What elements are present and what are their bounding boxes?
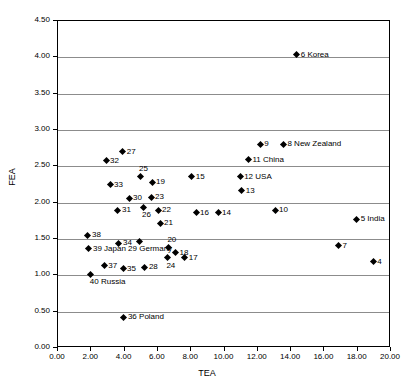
data-point-label: 36 Poland xyxy=(128,312,164,321)
y-tick-mark xyxy=(53,56,57,57)
data-point-label: 11 China xyxy=(252,155,283,164)
data-point-label: 27 xyxy=(127,147,136,156)
data-point-label: 39 Japan 29 Germany xyxy=(93,244,172,253)
data-point-label: 8 New Zealand xyxy=(287,139,341,148)
x-axis-title: TEA xyxy=(0,368,414,378)
x-tick-mark xyxy=(290,347,291,351)
y-tick-label: 2.50 xyxy=(34,161,50,169)
data-point-label: 30 xyxy=(133,193,142,202)
y-tick-mark xyxy=(53,20,57,21)
y-tick-label: 4.50 xyxy=(34,16,50,24)
data-point-label: 22 xyxy=(162,205,171,214)
y-tick-mark xyxy=(53,93,57,94)
y-tick-label: 0.00 xyxy=(34,343,50,351)
y-axis-title: FEA xyxy=(7,162,17,192)
x-tick-mark xyxy=(390,347,391,351)
x-tick-mark xyxy=(57,347,58,351)
x-tick-mark xyxy=(357,347,358,351)
gridline xyxy=(58,166,389,167)
gridline xyxy=(58,57,389,58)
gridline xyxy=(58,275,389,276)
gridline xyxy=(58,312,389,313)
x-tick-mark xyxy=(224,347,225,351)
data-point-label: 40 Russia xyxy=(90,277,126,286)
data-point-label: 16 xyxy=(200,208,209,217)
data-point-label: 37 xyxy=(108,261,117,270)
y-tick-label: 1.00 xyxy=(34,270,50,278)
data-point-label: 31 xyxy=(122,205,131,214)
data-point-label: 5 India xyxy=(361,214,385,223)
data-point-label: 26 xyxy=(142,210,151,219)
y-tick-mark xyxy=(53,165,57,166)
y-tick-label: 3.50 xyxy=(34,89,50,97)
y-tick-label: 3.00 xyxy=(34,125,50,133)
data-point-label: 38 xyxy=(92,230,101,239)
y-tick-label: 4.00 xyxy=(34,52,50,60)
data-point-label: 23 xyxy=(155,192,164,201)
data-point-label: 24 xyxy=(166,261,175,270)
y-tick-mark xyxy=(53,238,57,239)
scatter-chart: 0.000.501.001.502.002.503.003.504.004.50… xyxy=(0,0,414,391)
x-tick-mark xyxy=(190,347,191,351)
data-point-label: 19 xyxy=(156,177,165,186)
data-point-label: 35 xyxy=(127,264,136,273)
y-tick-mark xyxy=(53,129,57,130)
data-point-label: 12 USA xyxy=(244,172,272,181)
data-point-label: 4 xyxy=(377,257,381,266)
data-point-label: 28 xyxy=(149,262,158,271)
data-point-label: 25 xyxy=(139,164,148,173)
x-tick-mark xyxy=(323,347,324,351)
y-tick-mark xyxy=(53,202,57,203)
x-tick-mark xyxy=(124,347,125,351)
gridline xyxy=(58,130,389,131)
y-tick-mark xyxy=(53,274,57,275)
data-point-label: 14 xyxy=(222,208,231,217)
x-tick-label: 20.00 xyxy=(370,353,410,361)
data-point-label: 32 xyxy=(110,156,119,165)
y-tick-label: 2.00 xyxy=(34,198,50,206)
gridline xyxy=(58,203,389,204)
x-tick-mark xyxy=(257,347,258,351)
y-tick-label: 1.50 xyxy=(34,234,50,242)
data-point-label: 6 Korea xyxy=(301,50,329,59)
data-point-label: 7 xyxy=(342,241,346,250)
data-point-label: 21 xyxy=(164,218,173,227)
data-point-label: 10 xyxy=(279,205,288,214)
data-point-label: 17 xyxy=(189,253,198,262)
gridline xyxy=(58,94,389,95)
data-point-label: 33 xyxy=(114,180,123,189)
data-point-label: 13 xyxy=(246,186,255,195)
data-point-label: 9 xyxy=(264,139,268,148)
gridline xyxy=(58,239,389,240)
data-point-label: 15 xyxy=(196,172,205,181)
x-tick-mark xyxy=(90,347,91,351)
y-tick-label: 0.50 xyxy=(34,307,50,315)
y-tick-mark xyxy=(53,311,57,312)
x-tick-mark xyxy=(157,347,158,351)
